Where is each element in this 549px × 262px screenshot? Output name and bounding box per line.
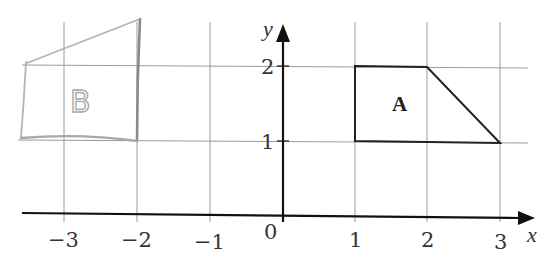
x-tick-neg1: −1 <box>194 230 225 254</box>
x-tick-3: 3 <box>494 230 507 254</box>
x-tick-neg3: −3 <box>48 228 79 252</box>
x-axis-label: x <box>526 222 537 247</box>
y-tick-1: 1 <box>261 130 274 154</box>
x-tick-1: 1 <box>349 228 362 252</box>
diagram-canvas: A B −3 −2 −1 0 1 2 3 2 1 y x <box>0 0 549 262</box>
y-axis-label: y <box>261 16 273 41</box>
x-tick-neg2: −2 <box>121 228 152 252</box>
y-axis-arrow-icon <box>276 24 290 42</box>
origin-label: 0 <box>264 220 277 244</box>
x-axis <box>22 213 522 218</box>
y-tick-2: 2 <box>261 55 274 79</box>
gridline-y-2 <box>22 65 528 68</box>
shape-b <box>21 19 140 141</box>
shape-a-label: A <box>392 92 408 116</box>
x-tick-2: 2 <box>421 228 434 252</box>
grid-lines <box>18 22 528 222</box>
coordinate-grid-diagram: A B −3 −2 −1 0 1 2 3 2 1 y x <box>0 0 549 262</box>
shape-b-label: B <box>70 84 91 119</box>
